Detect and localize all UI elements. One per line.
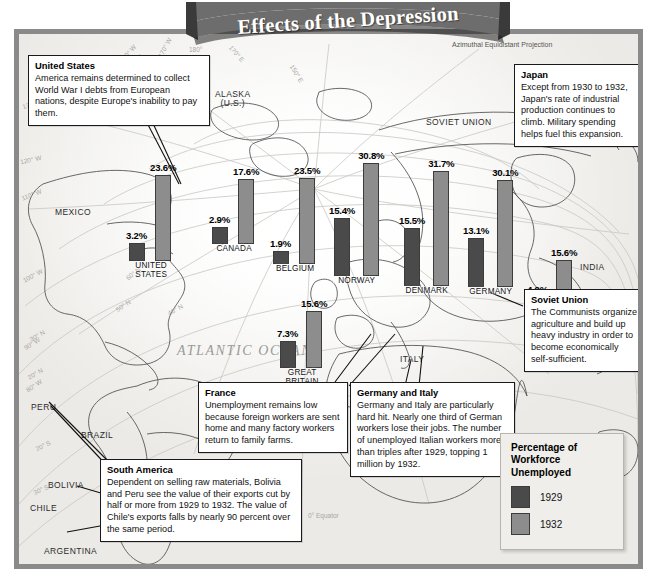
bar-group-united-states: 3.2% 23.6% UNITED STATES <box>126 162 176 279</box>
callout-title: France <box>205 387 341 399</box>
callout-title: Japan <box>521 69 632 81</box>
legend-row-1932: 1932 <box>511 513 614 535</box>
bars-row: 15.5% 31.7% <box>399 158 454 286</box>
bar-group-denmark: 15.5% 31.7% DENMARK <box>399 158 454 296</box>
bar-1932 <box>497 180 513 287</box>
callout-soviet-union: Soviet Union The Communists organize agr… <box>524 289 643 372</box>
bars-row: 13.1% 30.1% <box>463 167 518 287</box>
map-label-soviet-union: SOVIET UNION <box>426 117 492 127</box>
callout-body: Unemployment remains low because foreign… <box>205 400 341 447</box>
bar-1929 <box>404 228 420 286</box>
bar-value-1929: 3.2% <box>126 230 147 241</box>
legend-title: Percentage of Workforce Unemployed <box>511 442 614 480</box>
map-label-india: INDIA <box>580 262 605 272</box>
map-label-peru: PERU <box>31 402 56 412</box>
bars-row: 3.2% 23.6% <box>126 162 176 261</box>
bar-col-1929: 15.4% <box>329 205 355 276</box>
map-label-mexico: MEXICO <box>55 207 91 217</box>
bar-value-1932: 30.8% <box>358 150 384 161</box>
callout-body: Dependent on selling raw materials, Boli… <box>107 477 295 536</box>
bar-col-1932: 15.6% <box>301 298 327 368</box>
bars-row: 15.4% 30.8% <box>329 150 384 276</box>
bars-row: 2.9% 17.6% <box>209 166 259 244</box>
bar-col-1929: 3.2% <box>126 230 147 261</box>
map-label-brazil: BRAZIL <box>81 430 113 440</box>
callout-japan: Japan Except from 1930 to 1932, Japan's … <box>514 64 639 147</box>
callout-body: The Communists organize agriculture and … <box>531 307 638 366</box>
callout-united-states: United States America remains determined… <box>28 55 210 126</box>
legend: Percentage of Workforce Unemployed 1929 … <box>500 433 624 551</box>
bar-1932 <box>363 163 379 276</box>
bar-group-label: GERMANY <box>463 288 518 297</box>
bar-1932 <box>306 311 322 368</box>
bar-value-1929: 15.4% <box>329 205 355 216</box>
bar-1932 <box>433 171 449 286</box>
bar-group-norway: 15.4% 30.8% NORWAY <box>329 150 384 286</box>
bar-1929 <box>334 218 350 276</box>
bar-group-label: NORWAY <box>329 277 384 286</box>
bar-value-1929: 2.9% <box>209 214 230 225</box>
map-label-chile: CHILE <box>30 503 57 513</box>
map-label-argentina: ARGENTINA <box>44 546 97 556</box>
bar-col-1929: 1.9% <box>270 238 291 264</box>
bar-1932 <box>155 175 171 261</box>
bar-col-1932: 30.8% <box>358 150 384 276</box>
bar-value-1932: 15.6% <box>551 247 577 258</box>
bar-group-great-britain: 7.3% 15.6% GREAT BRITAIN <box>277 298 327 386</box>
bar-1932 <box>299 178 315 264</box>
bars-row: 7.3% 15.6% <box>277 298 327 368</box>
bar-1929 <box>212 227 228 244</box>
legend-swatch-1932 <box>511 513 530 535</box>
bar-value-1929: 13.1% <box>463 225 489 236</box>
bar-group-label: CANADA <box>209 245 259 254</box>
bar-1929 <box>280 341 296 368</box>
legend-label-1932: 1932 <box>540 519 562 530</box>
bar-col-1932: 31.7% <box>428 158 454 286</box>
callout-title: Soviet Union <box>531 294 638 306</box>
bar-value-1932: 31.7% <box>428 158 454 169</box>
legend-swatch-1929 <box>511 486 530 508</box>
bar-value-1932: 23.5% <box>294 165 320 176</box>
bar-value-1929: 1.9% <box>270 238 291 249</box>
callout-title: South America <box>107 464 295 476</box>
map-label-italy: ITALY <box>400 354 424 364</box>
bar-group-label: DENMARK <box>399 287 454 296</box>
bar-1932 <box>238 179 254 244</box>
callout-title: United States <box>35 60 203 72</box>
callout-south-america: South America Dependent on selling raw m… <box>100 459 302 542</box>
title-banner: Effects of the Depression <box>186 0 510 46</box>
bar-col-1932: 23.6% <box>150 162 176 261</box>
bar-group-canada: 2.9% 17.6% CANADA <box>209 166 259 254</box>
bar-col-1932: 30.1% <box>492 167 518 287</box>
bar-value-1932: 15.6% <box>301 298 327 309</box>
bar-value-1932: 30.1% <box>492 167 518 178</box>
callout-germany-italy: Germany and Italy Germany and Italy are … <box>350 382 515 477</box>
bar-value-1932: 17.6% <box>233 166 259 177</box>
bar-1929 <box>273 251 289 264</box>
map-frame: ATLANTIC OCEAN MEXICO ALASKA (U.S.) SOVI… <box>14 29 643 569</box>
callout-body: America remains determined to collect Wo… <box>35 73 203 120</box>
bar-col-1929: 13.1% <box>463 225 489 287</box>
bar-group-belgium: 1.9% 23.5% BELGIUM <box>270 165 320 274</box>
bar-group-label: UNITED STATES <box>126 262 176 279</box>
grid-label-equator: 0° Equator <box>308 512 339 519</box>
map-label-bolivia: BOLIVIA <box>48 480 84 490</box>
bars-row: 1.9% 23.5% <box>270 165 320 264</box>
bar-group-germany: 13.1% 30.1% GERMANY <box>463 167 518 297</box>
callout-title: Germany and Italy <box>357 387 508 399</box>
callout-body: Germany and Italy are particularly hard … <box>357 400 508 471</box>
map-canvas: ATLANTIC OCEAN MEXICO ALASKA (U.S.) SOVI… <box>19 34 638 564</box>
legend-label-1929: 1929 <box>540 492 562 503</box>
bar-value-1929: 15.5% <box>399 215 425 226</box>
legend-row-1929: 1929 <box>511 486 614 508</box>
callout-body: Except from 1930 to 1932, Japan's rate o… <box>521 82 632 141</box>
bar-col-1929: 2.9% <box>209 214 230 244</box>
bar-value-1932: 23.6% <box>150 162 176 173</box>
bar-col-1932: 17.6% <box>233 166 259 244</box>
bar-1929 <box>468 238 484 287</box>
bar-1929 <box>129 243 145 261</box>
bar-col-1929: 7.3% <box>277 328 298 368</box>
bar-group-label: BELGIUM <box>270 265 320 274</box>
callout-france: France Unemployment remains low because … <box>198 382 348 453</box>
map-label-alaska: ALASKA (U.S.) <box>215 90 250 108</box>
